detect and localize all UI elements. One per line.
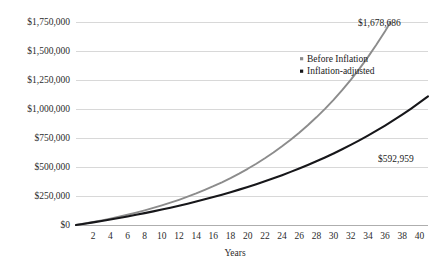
legend-label-before-inflation[interactable]: Before Inflation <box>307 54 368 64</box>
x-axis-tick-label: 20 <box>243 231 253 241</box>
legend-marker-inflation-adjusted[interactable] <box>300 70 303 73</box>
x-axis-tick-label: 34 <box>363 231 373 241</box>
y-axis-tick-label: $1,500,000 <box>27 46 70 56</box>
x-axis-tick-label: 6 <box>125 231 130 241</box>
y-axis-tick-label: $1,250,000 <box>27 75 70 85</box>
x-axis-tick-label: 16 <box>209 231 219 241</box>
x-axis-tick-label: 8 <box>142 231 147 241</box>
y-axis-tick-label: $750,000 <box>34 133 70 143</box>
x-axis-tick-label: 10 <box>157 231 167 241</box>
y-axis-tick-label: $0 <box>61 220 71 230</box>
x-axis-tick-label: 30 <box>329 231 339 241</box>
x-axis-tick-label: 26 <box>294 231 304 241</box>
x-axis-tick-label: 36 <box>380 231 390 241</box>
x-axis-tick-label: 22 <box>260 231 270 241</box>
x-axis-tick-label: 32 <box>346 231 356 241</box>
line-chart: $0$250,000$500,000$750,000$1,000,000$1,2… <box>0 0 436 271</box>
legend-label-inflation-adjusted[interactable]: Inflation-adjusted <box>307 66 375 76</box>
data-label-before-inflation: $1,678,686 <box>358 18 401 28</box>
legend-marker-before-inflation[interactable] <box>300 57 303 60</box>
x-axis-tick-label: 14 <box>191 231 201 241</box>
x-axis-tick-label: 4 <box>108 231 113 241</box>
x-axis-tick-label: 38 <box>397 231 407 241</box>
x-axis-tick-label: 18 <box>226 231 236 241</box>
y-axis-tick-label: $250,000 <box>34 191 70 201</box>
y-axis-tick-label: $1,000,000 <box>27 104 70 114</box>
x-axis-title: Years <box>224 248 246 258</box>
data-label-inflation-adjusted: $592,959 <box>378 154 414 164</box>
x-axis-tick-label: 28 <box>312 231 322 241</box>
x-axis-tick-label: 24 <box>277 231 287 241</box>
chart-container: $0$250,000$500,000$750,000$1,000,000$1,2… <box>0 0 436 271</box>
y-axis-tick-label: $500,000 <box>34 162 70 172</box>
x-axis-tick-label: 2 <box>91 231 96 241</box>
x-axis-tick-label: 40 <box>415 231 425 241</box>
y-axis-tick-label: $1,750,000 <box>27 17 70 27</box>
x-axis-tick-label: 12 <box>174 231 184 241</box>
